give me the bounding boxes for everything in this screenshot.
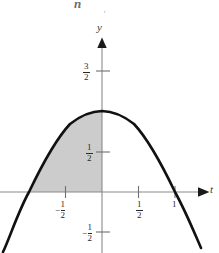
x-tick-label-one-half: 1 2 (136, 200, 143, 220)
y-tick-label-one-half-numerator: 1 (86, 143, 93, 152)
y-axis-label: y (97, 22, 102, 33)
fraction: 1 2 (88, 223, 93, 243)
figure-container: n ' y t 3 2 1 2 − 1 2 − 1 2 1 2 1 (0, 0, 219, 253)
y-tick-label-three-halves-numerator: 3 (83, 62, 90, 71)
y-axis-arrowhead (97, 38, 106, 49)
fraction: 1 2 (61, 200, 66, 220)
minus-sign: − (55, 206, 60, 215)
y-tick-label-three-halves-denominator: 2 (83, 73, 90, 82)
tiny-prime-mark: ' (104, 11, 105, 19)
x-tick-label-negative-one-half: − 1 2 (55, 200, 65, 220)
x-tick-label-one-half-numerator: 1 (136, 200, 143, 209)
t-axis-label: t (210, 184, 213, 195)
y-tick-label-negative-one-half-denominator: 2 (88, 234, 93, 243)
x-tick-label-negative-one-half-numerator: 1 (61, 200, 66, 209)
minus-sign: − (82, 229, 87, 238)
x-tick-label-negative-one-half-denominator: 2 (61, 211, 66, 220)
x-tick-label-one: 1 (172, 200, 177, 209)
x-tick-label-one-half-denominator: 2 (136, 211, 143, 220)
y-tick-label-negative-one-half: − 1 2 (82, 223, 92, 243)
parabola-plot (0, 0, 219, 253)
y-tick-label-one-half: 1 2 (86, 143, 93, 163)
y-tick-label-negative-one-half-numerator: 1 (88, 223, 93, 232)
y-tick-label-one-half-denominator: 2 (86, 154, 93, 163)
x-axis-arrowhead (198, 187, 210, 197)
top-partial-glyph: n (74, 0, 81, 10)
y-tick-label-three-halves: 3 2 (83, 62, 90, 82)
